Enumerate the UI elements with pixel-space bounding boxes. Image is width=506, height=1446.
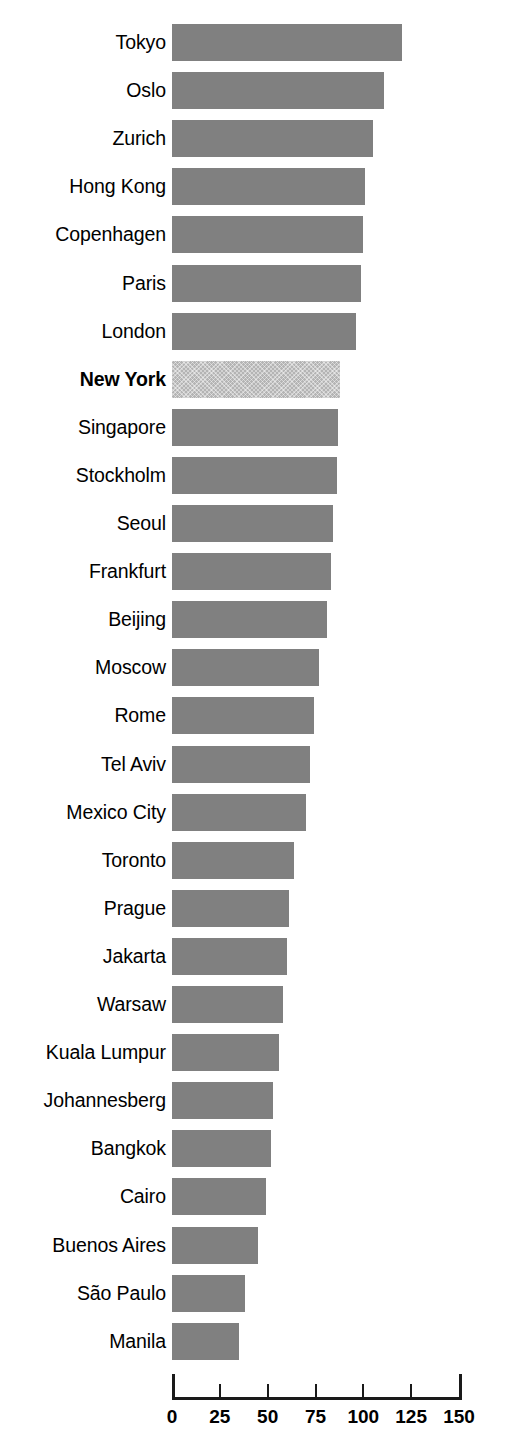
bar-category-label: Beijing: [0, 601, 166, 638]
x-axis-tick-label: 75: [305, 1406, 326, 1428]
bar: [172, 265, 361, 302]
bar-category-label: Moscow: [0, 649, 166, 686]
bar: [172, 938, 287, 975]
bar-category-label: London: [0, 313, 166, 350]
bar-row: Bangkok: [0, 1130, 506, 1178]
bar-category-label: Stockholm: [0, 457, 166, 494]
bar: [172, 1082, 273, 1119]
bar-row: Copenhagen: [0, 216, 506, 264]
bar: [172, 1130, 271, 1167]
bar: [172, 553, 331, 590]
bar: [172, 890, 289, 927]
bar: [172, 24, 402, 61]
bar-category-label: Buenos Aires: [0, 1227, 166, 1264]
x-axis-tick-label: 0: [167, 1406, 178, 1428]
bar-category-label: Johannesberg: [0, 1082, 166, 1119]
x-axis-left-cap: [172, 1374, 175, 1400]
bar-category-label: Rome: [0, 697, 166, 734]
bar-category-label: Hong Kong: [0, 168, 166, 205]
bar-category-label: Paris: [0, 265, 166, 302]
bar-category-label: Seoul: [0, 505, 166, 542]
x-axis-tick-label: 50: [257, 1406, 278, 1428]
bar-category-label: Manila: [0, 1323, 166, 1360]
bar-category-label: Cairo: [0, 1178, 166, 1215]
bar-row: Seoul: [0, 505, 506, 553]
bar: [172, 842, 294, 879]
bar-category-label: Prague: [0, 890, 166, 927]
bar-row: Beijing: [0, 601, 506, 649]
bar-row: Zurich: [0, 120, 506, 168]
bar-row: Buenos Aires: [0, 1227, 506, 1275]
x-axis-tick: [267, 1384, 269, 1400]
bar-category-label: Kuala Lumpur: [0, 1034, 166, 1071]
bar-row: Johannesberg: [0, 1082, 506, 1130]
bar-category-label: Toronto: [0, 842, 166, 879]
bar: [172, 794, 306, 831]
bar: [172, 168, 365, 205]
bar-row: Paris: [0, 265, 506, 313]
x-axis-tick-label: 100: [347, 1406, 379, 1428]
x-axis-tick-label: 25: [209, 1406, 230, 1428]
bar-category-label: Singapore: [0, 409, 166, 446]
bar: [172, 1034, 279, 1071]
bar-row: Manila: [0, 1323, 506, 1371]
x-axis-tick-label: 125: [395, 1406, 427, 1428]
bar-row: London: [0, 313, 506, 361]
bar: [172, 505, 333, 542]
bar-category-label: Jakarta: [0, 938, 166, 975]
bar: [172, 1178, 266, 1215]
bar-category-label: Warsaw: [0, 986, 166, 1023]
bar: [172, 457, 337, 494]
x-axis-tick-label: 150: [443, 1406, 475, 1428]
bar-row: Stockholm: [0, 457, 506, 505]
bar: [172, 986, 283, 1023]
bar: [172, 1227, 258, 1264]
bar-category-label: Bangkok: [0, 1130, 166, 1167]
bar-row: São Paulo: [0, 1275, 506, 1323]
bar-row: Hong Kong: [0, 168, 506, 216]
bar-category-label: Zurich: [0, 120, 166, 157]
x-axis-tick: [219, 1384, 221, 1400]
bar-row: Rome: [0, 697, 506, 745]
bar-row: Mexico City: [0, 794, 506, 842]
bar-row: New York: [0, 361, 506, 409]
bar-category-label: Oslo: [0, 72, 166, 109]
bar: [172, 697, 314, 734]
bar-row: Warsaw: [0, 986, 506, 1034]
x-axis-right-cap: [459, 1374, 462, 1400]
bar-row: Toronto: [0, 842, 506, 890]
bar: [172, 409, 338, 446]
bar: [172, 120, 373, 157]
bar-category-label: Mexico City: [0, 794, 166, 831]
bar: [172, 72, 384, 109]
bar-category-label: Tokyo: [0, 24, 166, 61]
bar-row: Prague: [0, 890, 506, 938]
bar: [172, 313, 356, 350]
bar-category-label: New York: [0, 361, 166, 398]
bar: [172, 1323, 239, 1360]
x-axis-line: [172, 1397, 462, 1400]
x-axis-tick: [362, 1384, 364, 1400]
bar-row: Kuala Lumpur: [0, 1034, 506, 1082]
bar-row: Tokyo: [0, 24, 506, 72]
bar-chart: TokyoOsloZurichHong KongCopenhagenParisL…: [0, 0, 506, 1446]
bar-row: Frankfurt: [0, 553, 506, 601]
x-axis: 0255075100125150: [0, 1380, 506, 1446]
bar: [172, 601, 327, 638]
bar-category-label: Tel Aviv: [0, 746, 166, 783]
bar-row: Jakarta: [0, 938, 506, 986]
plot-area: TokyoOsloZurichHong KongCopenhagenParisL…: [0, 0, 506, 1446]
bar: [172, 649, 319, 686]
x-axis-tick: [315, 1384, 317, 1400]
bar-row: Cairo: [0, 1178, 506, 1226]
bar-category-label: São Paulo: [0, 1275, 166, 1312]
bar-row: Singapore: [0, 409, 506, 457]
bar-category-label: Copenhagen: [0, 216, 166, 253]
bar-category-label: Frankfurt: [0, 553, 166, 590]
bar: [172, 746, 310, 783]
bar: [172, 1275, 245, 1312]
bar: [172, 216, 363, 253]
bar-row: Moscow: [0, 649, 506, 697]
bar-row: Oslo: [0, 72, 506, 120]
bar-highlighted: [172, 361, 340, 398]
